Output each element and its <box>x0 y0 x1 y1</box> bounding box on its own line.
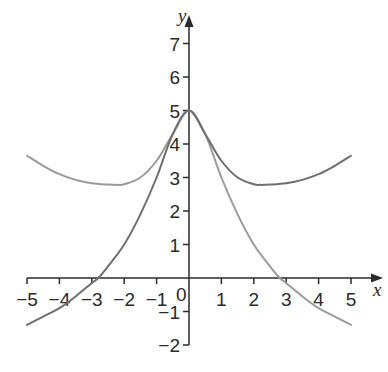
x-tick-label: −2 <box>113 289 135 310</box>
y-tick-label: −1 <box>158 302 180 323</box>
y-tick-label: 2 <box>169 201 180 222</box>
x-tick-label: −5 <box>16 289 38 310</box>
y-tick-label: −2 <box>158 335 180 356</box>
x-tick-label: 2 <box>249 289 260 310</box>
y-tick-label: 6 <box>169 67 180 88</box>
x-tick-label: −3 <box>81 289 103 310</box>
y-ticks: −2−11234567 <box>158 34 189 357</box>
x-tick-label: 3 <box>281 289 292 310</box>
y-tick-label: 3 <box>169 168 180 189</box>
y-tick-label: 5 <box>169 101 180 122</box>
x-tick-label: 1 <box>216 289 227 310</box>
y-tick-label: 1 <box>169 235 180 256</box>
y-axis-label: y <box>176 5 187 26</box>
chart-canvas: x y 0 −5−4−3−2−112345 −2−11234567 <box>0 0 388 372</box>
axes: x y 0 −5−4−3−2−112345 −2−11234567 <box>16 5 383 356</box>
y-tick-label: 7 <box>169 34 180 55</box>
x-axis-label: x <box>372 279 382 300</box>
x-tick-label: 5 <box>346 289 357 310</box>
